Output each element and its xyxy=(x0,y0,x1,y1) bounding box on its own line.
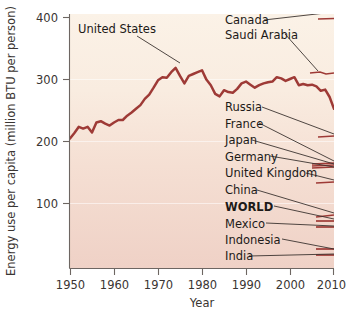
x-tick-label-2000: 2000 xyxy=(276,278,305,292)
country-label-canada: Canada xyxy=(225,13,269,27)
y-axis-title: Energy use per capita (million BTU per p… xyxy=(4,6,18,276)
annotation-united-states: United States xyxy=(78,22,156,36)
country-label-russia: Russia xyxy=(225,100,262,114)
x-axis-title: Year xyxy=(189,296,215,310)
country-label-japan: Japan xyxy=(224,133,257,147)
country-label-india: India xyxy=(225,249,253,263)
x-tick-label-2010: 2010 xyxy=(317,278,346,292)
country-label-world: WORLD xyxy=(225,200,273,214)
country-label-china: China xyxy=(225,183,258,197)
y-tick-label-100: 100 xyxy=(36,197,58,211)
line-united-kingdom xyxy=(316,182,334,183)
y-tick-label-300: 300 xyxy=(36,73,58,87)
energy-use-chart: 400 300 200 100 1950 1960 1970 1980 1990… xyxy=(0,0,350,316)
x-tick-label-1950: 1950 xyxy=(56,278,85,292)
y-tick-label-400: 400 xyxy=(36,11,58,25)
x-tick-label-1970: 1970 xyxy=(144,278,173,292)
line-russia xyxy=(318,136,334,137)
country-label-united-kingdom: United Kingdom xyxy=(225,166,317,180)
x-tick-label-1980: 1980 xyxy=(188,278,217,292)
country-label-germany: Germany xyxy=(225,150,278,164)
country-label-france: France xyxy=(225,117,263,131)
country-label-mexico: Mexico xyxy=(225,217,265,231)
x-tick-label-1960: 1960 xyxy=(100,278,129,292)
x-tick-label-1990: 1990 xyxy=(232,278,261,292)
y-tick-label-200: 200 xyxy=(36,135,58,149)
country-label-saudi-arabia: Saudi Arabia xyxy=(225,28,298,42)
line-canada xyxy=(318,19,334,20)
country-label-indonesia: Indonesia xyxy=(225,233,281,247)
